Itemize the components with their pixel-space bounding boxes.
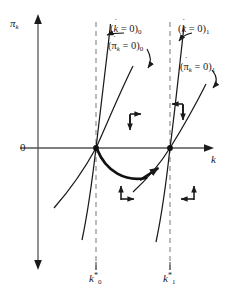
curve-label-kdot-1: (k˙ = 0)1 — [178, 24, 210, 36]
equilibrium-point-1 — [167, 145, 173, 151]
pidot0-dot: ˙ — [113, 35, 116, 44]
y-axis-label: πk — [10, 18, 19, 31]
y-axis-label-sub: k — [16, 23, 19, 31]
pidot1-dot: ˙ — [185, 56, 188, 65]
saddle-path — [97, 149, 146, 179]
arrow-pair-lower-mid — [121, 186, 134, 200]
origin-label: 0 — [20, 142, 26, 153]
tick-1-sub: 1 — [172, 278, 176, 286]
kdot1-sub: 1 — [206, 28, 210, 36]
y-axis-arrow-down — [34, 260, 42, 270]
kdot0-eq: = 0 — [118, 23, 134, 34]
x-axis-label: k — [211, 154, 216, 165]
kdot0-sub: 0 — [138, 28, 142, 36]
equilibrium-point-0 — [93, 145, 99, 151]
curve-label-pidot-0: (π˙k = 0)0 — [108, 41, 143, 53]
curve-label-pidot-1: (π˙k = 0)1 — [180, 62, 215, 74]
kdot0-dot: ˙ — [114, 18, 117, 27]
pidot0-sub: 0 — [140, 45, 144, 53]
tick-label-k-star-1: k*1 — [163, 272, 175, 286]
x-axis-arrow-right — [204, 144, 214, 152]
pidot1-eq: = 0 — [192, 61, 208, 72]
kdot1-eq: = 0 — [186, 23, 202, 34]
pidot0-eq: = 0 — [120, 40, 136, 51]
tick-marks — [96, 262, 170, 270]
saddle-path-arrow — [140, 168, 159, 180]
pidot1-sub: 1 — [212, 66, 216, 74]
locus-curves — [54, 24, 206, 242]
y-axis-arrow-up — [34, 14, 42, 24]
tick-0-sub: 0 — [98, 278, 102, 286]
leader-pidot-0 — [147, 49, 151, 68]
arrow-pair-upper-mid — [130, 114, 141, 130]
kdot1-dot: ˙ — [182, 18, 185, 27]
phase-diagram-figure: πk k 0 k*0 k*1 (k˙ = 0)0 (π˙k = 0)0 (k˙ … — [0, 0, 248, 299]
tick-label-k-star-0: k*0 — [89, 272, 101, 286]
arrow-pair-lower-right — [181, 186, 194, 200]
